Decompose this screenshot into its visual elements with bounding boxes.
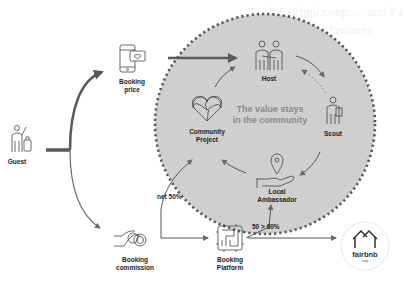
booking-platform-label-line1: Booking — [210, 256, 250, 264]
hand-coins-icon — [114, 231, 146, 246]
phone-heart-icon — [120, 45, 145, 72]
fairbnb-logo-text: fairbnb — [345, 250, 385, 259]
scout-label: Scout — [318, 130, 348, 138]
booking-platform-label: Booking Platform — [210, 256, 250, 272]
net-share-label: net 50% — [157, 193, 182, 200]
booking-commission-label-line2: commission — [110, 264, 160, 272]
guest-icon — [12, 126, 31, 153]
booking-platform-label-line2: Platform — [210, 264, 250, 272]
booking-commission-label-line1: Booking — [110, 256, 160, 264]
booking-price-label-line2: price — [112, 86, 152, 94]
guest-label: Guest — [2, 158, 32, 166]
community-project-label-line1: Community — [184, 128, 230, 136]
arrow-guest-to-commission — [70, 150, 100, 228]
center-slogan-line1: The value stays — [230, 104, 310, 115]
arrow-guest-to-booking-price — [70, 72, 102, 150]
booking-price-label: Booking price — [112, 78, 152, 94]
local-ambassador-label-line2: Ambassador — [250, 196, 304, 204]
fairbnb-logo-subtext: coop — [345, 259, 385, 263]
host-label: Host — [254, 75, 284, 83]
platform-share-label: 50 > 60% — [252, 223, 280, 230]
booking-price-label-line1: Booking — [112, 78, 152, 86]
community-project-label: Community Project — [184, 128, 230, 144]
center-slogan: The value stays in the community — [230, 104, 310, 126]
center-slogan-line2: in the community — [230, 115, 310, 126]
community-project-label-line2: Project — [184, 136, 230, 144]
local-ambassador-label: Local Ambassador — [250, 188, 304, 204]
booking-commission-label: Booking commission — [110, 256, 160, 272]
local-ambassador-label-line1: Local — [250, 188, 304, 196]
